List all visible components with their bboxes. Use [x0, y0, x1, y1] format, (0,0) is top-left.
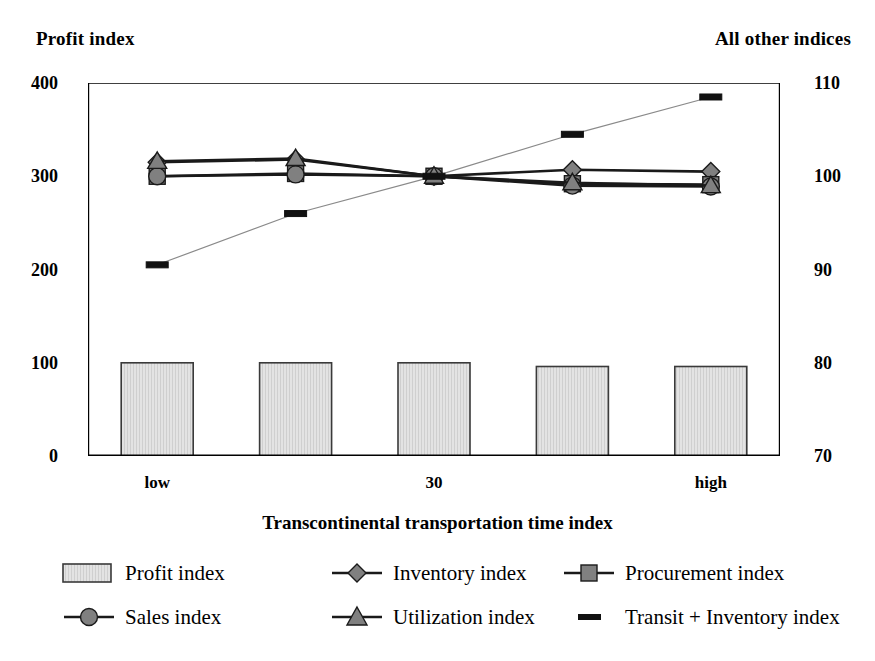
legend-item[interactable]: Transit + Inventory index [562, 604, 840, 630]
circle-marker-icon [287, 166, 304, 183]
x-axis-tick-label: low [144, 473, 170, 493]
y-right-tick: 90 [814, 259, 832, 280]
dash-marker-icon [700, 94, 722, 100]
y-right-tick: 70 [814, 446, 832, 467]
chart-canvas [88, 83, 780, 456]
bar [398, 363, 470, 456]
legend-label: Procurement index [625, 561, 784, 586]
legend-label: Sales index [125, 605, 221, 630]
dash-marker-icon [562, 604, 616, 630]
legend-item[interactable]: Sales index [62, 604, 221, 630]
bar-series [121, 363, 747, 456]
diamond-marker-icon [330, 560, 384, 586]
legend-item[interactable]: Profit index [62, 560, 225, 586]
y-left-tick: 100 [31, 352, 58, 373]
legend-row: Profit indexInventory indexProcurement i… [62, 551, 822, 595]
bar [536, 367, 608, 457]
y-left-tick: 200 [31, 259, 58, 280]
dash-marker-icon [285, 211, 307, 217]
dash-marker-icon [423, 173, 445, 179]
y-left-tick: 400 [31, 73, 58, 94]
chart-legend: Profit indexInventory indexProcurement i… [62, 551, 822, 639]
legend-label: Utilization index [393, 605, 535, 630]
circle-marker-icon [62, 604, 116, 630]
legend-item[interactable]: Utilization index [330, 604, 535, 630]
dash-marker-icon [146, 262, 168, 268]
y-right-tick: 110 [814, 73, 840, 94]
x-axis-title: Transcontinental transportation time ind… [0, 512, 875, 534]
square-marker-icon [562, 560, 616, 586]
x-axis-tick-label: 30 [426, 473, 443, 493]
bar-swatch-icon [62, 560, 116, 586]
legend-item[interactable]: Inventory index [330, 560, 527, 586]
circle-marker-icon [149, 168, 166, 185]
y-right-tick: 100 [814, 166, 841, 187]
y-right-tick: 80 [814, 352, 832, 373]
triangle-marker-icon [330, 604, 384, 630]
bar [675, 367, 747, 457]
legend-item[interactable]: Procurement index [562, 560, 784, 586]
chart-figure: Profit index All other indices 400300200… [0, 0, 875, 661]
y-left-tick: 300 [31, 166, 58, 187]
y-left-tick: 0 [49, 446, 58, 467]
legend-label: Profit index [125, 561, 225, 586]
bar [121, 363, 193, 456]
legend-label: Transit + Inventory index [625, 605, 840, 630]
legend-row: Sales indexUtilization indexTransit + In… [62, 595, 822, 639]
x-axis-tick-label: high [695, 473, 727, 493]
bar [260, 363, 332, 456]
legend-label: Inventory index [393, 561, 527, 586]
dash-marker-icon [561, 131, 583, 137]
plot-area [88, 83, 780, 456]
